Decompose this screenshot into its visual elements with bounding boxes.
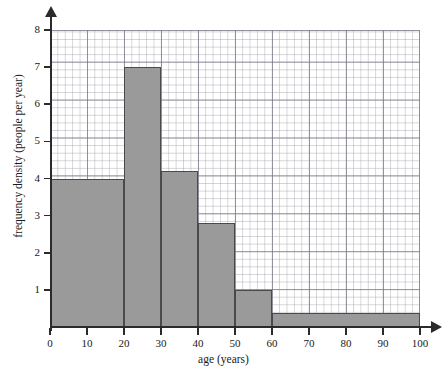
x-tick-label-30: 30 <box>147 338 175 349</box>
bar-0-20 <box>50 179 124 328</box>
y-tick-3 <box>44 215 51 217</box>
x-tick-20 <box>123 328 125 335</box>
bar-60-100 <box>272 313 420 327</box>
x-tick-label-100: 100 <box>406 338 434 349</box>
x-axis-arrow-icon <box>431 321 442 333</box>
y-tick-label-7: 7 <box>28 61 40 72</box>
y-tick-6 <box>44 103 51 105</box>
y-tick-label-3: 3 <box>28 210 40 221</box>
x-tick-100 <box>419 328 421 335</box>
histogram-chart: 12345678 0102030405060708090100 age (yea… <box>0 0 447 373</box>
y-tick-label-8: 8 <box>28 24 40 35</box>
x-tick-90 <box>382 328 384 335</box>
x-tick-label-50: 50 <box>221 338 249 349</box>
y-tick-1 <box>44 289 51 291</box>
y-tick-8 <box>44 29 51 31</box>
x-tick-label-90: 90 <box>369 338 397 349</box>
y-tick-label-1: 1 <box>28 284 40 295</box>
x-tick-40 <box>197 328 199 335</box>
x-tick-label-10: 10 <box>73 338 101 349</box>
y-tick-label-5: 5 <box>28 135 40 146</box>
x-axis-line <box>50 326 433 328</box>
x-tick-80 <box>345 328 347 335</box>
y-tick-label-4: 4 <box>28 173 40 184</box>
y-tick-5 <box>44 141 51 143</box>
x-tick-label-70: 70 <box>295 338 323 349</box>
bar-30-40 <box>161 171 198 327</box>
x-tick-label-20: 20 <box>110 338 138 349</box>
x-tick-60 <box>271 328 273 335</box>
x-tick-50 <box>234 328 236 335</box>
plot-area <box>50 30 420 327</box>
bar-20-30 <box>124 67 161 327</box>
x-tick-label-0: 0 <box>36 338 64 349</box>
y-tick-7 <box>44 66 51 68</box>
bar-50-60 <box>235 290 272 327</box>
x-tick-label-80: 80 <box>332 338 360 349</box>
x-tick-10 <box>86 328 88 335</box>
y-tick-label-6: 6 <box>28 98 40 109</box>
y-tick-2 <box>44 252 51 254</box>
y-axis-line <box>50 14 52 331</box>
x-tick-30 <box>160 328 162 335</box>
y-axis-label: frequency density (people per year) <box>12 41 24 271</box>
y-tick-label-2: 2 <box>28 247 40 258</box>
x-axis-label: age (years) <box>0 353 447 365</box>
x-tick-70 <box>308 328 310 335</box>
x-tick-label-40: 40 <box>184 338 212 349</box>
x-tick-0 <box>49 328 51 335</box>
bar-series <box>50 30 420 327</box>
y-tick-4 <box>44 178 51 180</box>
y-axis-arrow-icon <box>45 6 57 17</box>
bar-40-50 <box>198 223 235 327</box>
x-tick-label-60: 60 <box>258 338 286 349</box>
